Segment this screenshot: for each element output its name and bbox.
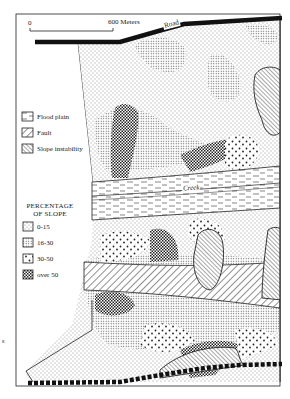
- creek-label: Creek: [182, 183, 201, 192]
- scale-bar: [30, 28, 113, 31]
- slope-analysis-map: [0, 0, 290, 399]
- legend-over-50-swatch: [23, 270, 33, 279]
- legend-0-15-swatch: [23, 222, 33, 231]
- legend-slope-instability-swatch: [22, 144, 33, 153]
- legend-slope-instability-label: Slope instability: [37, 145, 83, 153]
- legend-fault-label: Fault: [37, 129, 51, 137]
- legend-over-50-label: over 50: [37, 271, 58, 279]
- legend-flood-plain-swatch: [22, 112, 33, 121]
- scale-bar-start-label: 0: [28, 19, 32, 27]
- scale-bar-end-label: 600 Meters: [108, 18, 140, 26]
- legend-0-15-label: 0-15: [37, 223, 50, 231]
- legend-flood-plain-label: Flood plain: [37, 113, 69, 121]
- margin-mark: s: [2, 337, 4, 345]
- legend-slope-title-line1: PERCENTAGE: [25, 202, 75, 210]
- legend-16-30-swatch: [23, 238, 33, 247]
- legend-slope-title-line2: OF SLOPE: [25, 210, 75, 218]
- legend-30-50-label: 30-50: [37, 255, 53, 263]
- legend-16-30-label: 16-30: [37, 239, 53, 247]
- legend-fault-swatch: [22, 128, 33, 137]
- legend-30-50-swatch: [23, 254, 33, 263]
